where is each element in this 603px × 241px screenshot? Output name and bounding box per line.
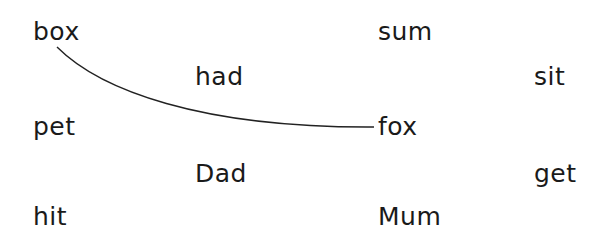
connection-lines xyxy=(0,0,603,241)
word-sum[interactable]: sum xyxy=(378,19,433,44)
word-box[interactable]: box xyxy=(33,19,80,44)
word-mum[interactable]: Mum xyxy=(378,204,441,229)
word-pet[interactable]: pet xyxy=(33,114,76,139)
word-sit[interactable]: sit xyxy=(534,64,565,89)
word-had[interactable]: had xyxy=(195,64,244,89)
word-dad[interactable]: Dad xyxy=(195,161,247,186)
word-get[interactable]: get xyxy=(534,161,577,186)
word-hit[interactable]: hit xyxy=(33,204,67,229)
word-fox[interactable]: fox xyxy=(378,114,418,139)
word-matching-worksheet: box had pet Dad hit sum fox Mum sit get xyxy=(0,0,603,241)
